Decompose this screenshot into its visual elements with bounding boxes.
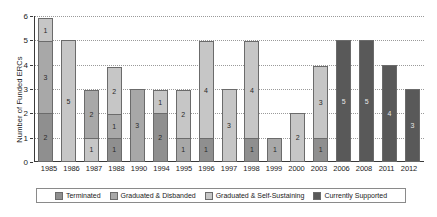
- x-tick-label: 2012: [398, 164, 420, 173]
- bar-segment[interactable]: 1: [153, 90, 168, 114]
- y-tick-label: 1: [24, 133, 28, 142]
- stacked-bar[interactable]: 1: [267, 139, 282, 162]
- stacked-bar[interactable]: 14: [244, 42, 259, 162]
- x-tick-label: 1996: [196, 164, 218, 173]
- y-axis-ticks: 0123456: [0, 16, 33, 162]
- stacked-bar[interactable]: 3: [222, 90, 237, 162]
- bar-segment[interactable]: 3: [222, 89, 237, 162]
- bar-segment[interactable]: 1: [38, 18, 53, 42]
- x-tick-label: 1994: [151, 164, 173, 173]
- bar-segment[interactable]: 1: [244, 138, 259, 162]
- stacked-bar[interactable]: 3: [405, 90, 420, 162]
- bar-column: 12: [176, 16, 191, 162]
- y-tick-mark: [30, 89, 33, 90]
- bar-segment[interactable]: 2: [176, 90, 191, 139]
- bar-segment[interactable]: 2: [153, 113, 168, 162]
- bar-column: 3: [405, 16, 420, 162]
- bar-column: 13: [313, 16, 328, 162]
- bar-segment-value: 4: [250, 87, 254, 94]
- bar-segment-value: 4: [388, 110, 392, 117]
- bar-segment[interactable]: 4: [244, 41, 259, 138]
- bars-container: 231512112321121431412135543: [35, 16, 424, 162]
- bar-segment[interactable]: 3: [405, 89, 420, 162]
- bar-segment[interactable]: 3: [38, 41, 53, 114]
- bar-segment-value: 5: [342, 98, 346, 105]
- y-tick-label: 0: [24, 158, 28, 167]
- bar-segment-value: 2: [89, 111, 93, 118]
- stacked-bar[interactable]: 12: [84, 91, 99, 162]
- bar-segment-value: 1: [158, 99, 162, 106]
- bar-segment-value: 2: [112, 88, 116, 95]
- bar-segment[interactable]: 5: [61, 40, 76, 162]
- x-tick-label: 1988: [106, 164, 128, 173]
- bar-segment-value: 4: [204, 87, 208, 94]
- bar-segment-value: 1: [273, 146, 277, 153]
- x-tick-label: 2008: [353, 164, 375, 173]
- bar-segment[interactable]: 3: [130, 89, 145, 162]
- y-tick-mark: [30, 65, 33, 66]
- y-tick-label: 6: [24, 12, 28, 21]
- bar-segment[interactable]: 5: [336, 40, 351, 162]
- bar-segment-value: 3: [227, 122, 231, 129]
- bar-segment[interactable]: 4: [382, 65, 397, 162]
- legend-item[interactable]: Terminated: [55, 192, 101, 200]
- stacked-bar[interactable]: 4: [382, 66, 397, 162]
- bar-segment[interactable]: 5: [359, 40, 374, 162]
- stacked-bar[interactable]: 5: [336, 41, 351, 162]
- bar-segment[interactable]: 2: [84, 90, 99, 139]
- bar-segment[interactable]: 4: [199, 41, 214, 138]
- y-tick-mark: [30, 138, 33, 139]
- bar-segment-value: 3: [319, 99, 323, 106]
- legend-label: Currently Supported: [324, 192, 387, 199]
- bar-segment[interactable]: 1: [199, 138, 214, 162]
- bar-segment[interactable]: 1: [107, 138, 122, 162]
- bar-segment-value: 1: [319, 146, 323, 153]
- stacked-bar[interactable]: 5: [359, 41, 374, 162]
- bar-column: 5: [359, 16, 374, 162]
- bar-column: 231: [38, 16, 53, 162]
- stacked-bar[interactable]: 12: [176, 91, 191, 162]
- bar-column: 3: [222, 16, 237, 162]
- legend-label: Terminated: [66, 192, 101, 199]
- bar-segment-value: 2: [44, 134, 48, 141]
- bar-segment[interactable]: 1: [176, 138, 191, 162]
- x-tick-label: 2000: [286, 164, 308, 173]
- bar-segment-value: 1: [181, 146, 185, 153]
- stacked-bar[interactable]: 14: [199, 42, 214, 162]
- legend-swatch-icon: [313, 192, 321, 200]
- stacked-bar[interactable]: 3: [130, 90, 145, 162]
- bar-segment[interactable]: 1: [84, 138, 99, 162]
- stacked-bar[interactable]: 112: [107, 68, 122, 162]
- bar-column: 5: [336, 16, 351, 162]
- bar-column: 4: [382, 16, 397, 162]
- stacked-bar[interactable]: 231: [38, 19, 53, 162]
- bar-segment[interactable]: 3: [313, 66, 328, 139]
- legend-swatch-icon: [55, 192, 63, 200]
- bar-column: 14: [244, 16, 259, 162]
- bar-segment-value: 1: [250, 146, 254, 153]
- x-tick-label: 2006: [331, 164, 353, 173]
- bar-column: 5: [61, 16, 76, 162]
- x-tick-label: 1990: [128, 164, 150, 173]
- stacked-bar[interactable]: 21: [153, 91, 168, 162]
- x-tick-label: 2011: [376, 164, 398, 173]
- stacked-bar[interactable]: 2: [290, 114, 305, 162]
- stacked-bar[interactable]: 13: [313, 67, 328, 162]
- legend-item[interactable]: Graduated & Self-Sustaining: [205, 192, 305, 200]
- x-tick-label: 1987: [83, 164, 105, 173]
- bar-segment[interactable]: 1: [313, 138, 328, 162]
- bar-segment[interactable]: 2: [38, 113, 53, 162]
- bar-segment[interactable]: 2: [107, 67, 122, 116]
- y-tick-mark: [30, 40, 33, 41]
- bar-segment-value: 1: [44, 27, 48, 34]
- bar-column: 21: [153, 16, 168, 162]
- bar-segment[interactable]: 1: [267, 138, 282, 162]
- legend-item[interactable]: Graduated & Disbanded: [110, 192, 196, 200]
- bar-column: 112: [107, 16, 122, 162]
- bar-segment[interactable]: 1: [107, 114, 122, 138]
- bar-segment-value: 2: [296, 134, 300, 141]
- bar-segment[interactable]: 2: [290, 113, 305, 162]
- stacked-bar[interactable]: 5: [61, 41, 76, 162]
- y-tick-mark: [30, 16, 33, 17]
- legend-item[interactable]: Currently Supported: [313, 192, 387, 200]
